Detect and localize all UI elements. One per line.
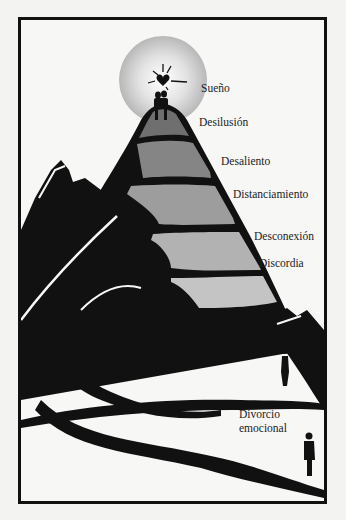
stage-label-desconexion: Desconexión <box>254 230 314 243</box>
bottom-label-line1: Divorcio <box>239 408 280 421</box>
stage-label-distanciamiento: Distanciamiento <box>233 188 308 201</box>
bottom-label-line2: emocional <box>239 422 287 435</box>
stage-label-desaliento: Desaliento <box>221 155 270 168</box>
stage-label-discordia: Discordia <box>259 257 304 270</box>
man-figure-icon <box>304 433 315 477</box>
stage-label-sueno: Sueño <box>201 82 230 95</box>
illustration-frame: Sueño Desilusión Desaliento Distanciamie… <box>18 17 327 504</box>
stage-label-desilusion: Desilusión <box>199 116 248 129</box>
